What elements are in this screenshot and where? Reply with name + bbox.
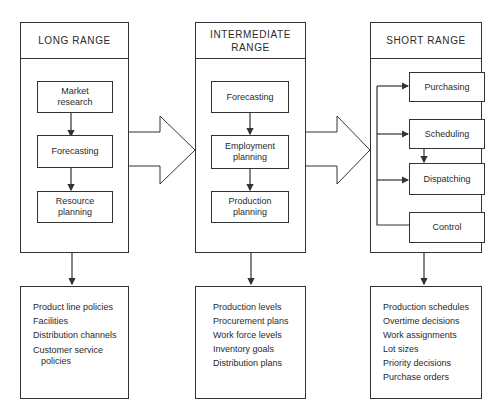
step-resource-planning: Resource planning (37, 191, 113, 223)
output-item: Production levels (213, 300, 305, 314)
output-item: Distribution plans (213, 356, 305, 370)
step-label: research (57, 97, 92, 108)
block-arrow-long-to-intermediate (128, 116, 195, 184)
step-label: Dispatching (423, 174, 470, 185)
output-item: Distribution channels (33, 328, 128, 342)
step-purchasing: Purchasing (409, 72, 485, 102)
block-arrow-intermediate-to-short (305, 116, 370, 184)
step-label: Market (61, 86, 89, 97)
intermediate-range-outputs: Production levels Procurement plans Work… (195, 286, 306, 399)
step-label: Scheduling (425, 129, 470, 140)
output-item: Customer service (33, 345, 128, 356)
long-range-title: LONG RANGE (21, 23, 128, 59)
output-item: Priority decisions (383, 356, 481, 370)
step-dispatching: Dispatching (409, 163, 485, 195)
intermediate-range-title: INTERMEDIATE RANGE (196, 23, 305, 59)
step-label: planning (233, 207, 267, 218)
output-item: Overtime decisions (383, 314, 481, 328)
step-label: Production (228, 196, 271, 207)
step-market-research: Market research (37, 81, 113, 113)
output-item: Lot sizes (383, 342, 481, 356)
step-forecasting-long: Forecasting (37, 135, 113, 168)
short-range-outputs: Production schedules Overtime decisions … (370, 286, 482, 399)
step-production-planning: Production planning (211, 191, 289, 223)
step-label: Control (432, 222, 461, 233)
output-item: Work force levels (213, 328, 305, 342)
long-range-title-text: LONG RANGE (38, 34, 111, 47)
output-item: Facilities (33, 314, 128, 328)
step-forecasting-intermediate: Forecasting (211, 81, 289, 113)
step-label: Forecasting (226, 92, 273, 103)
step-label: Forecasting (51, 146, 98, 157)
step-control: Control (409, 212, 485, 243)
step-label: Resource (56, 196, 95, 207)
short-range-title: SHORT RANGE (371, 23, 481, 59)
step-scheduling: Scheduling (409, 119, 485, 149)
output-item: Purchase orders (383, 370, 481, 384)
step-label: Employment (225, 141, 275, 152)
output-item: Procurement plans (213, 314, 305, 328)
output-item: Work assignments (383, 328, 481, 342)
output-item: Inventory goals (213, 342, 305, 356)
output-item: policies (33, 356, 128, 367)
step-label: planning (58, 207, 92, 218)
output-item: Product line policies (33, 300, 128, 314)
long-range-outputs: Product line policies Facilities Distrib… (20, 286, 129, 399)
intermediate-title-line1: INTERMEDIATE (210, 28, 291, 41)
output-item: Production schedules (383, 300, 481, 314)
step-label: planning (233, 152, 267, 163)
short-range-title-text: SHORT RANGE (386, 34, 466, 47)
step-label: Purchasing (424, 82, 469, 93)
intermediate-title-line2: RANGE (231, 41, 270, 54)
step-employment-planning: Employment planning (211, 135, 289, 169)
